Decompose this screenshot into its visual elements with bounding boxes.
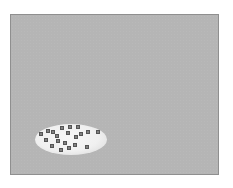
x-marker-icon xyxy=(63,141,67,145)
x-marker-icon xyxy=(56,139,60,143)
x-marker-icon xyxy=(55,134,59,138)
x-marker-icon xyxy=(67,146,71,150)
x-marker-icon xyxy=(66,131,70,135)
x-marker-icon xyxy=(74,135,78,139)
x-marker-icon xyxy=(60,126,64,130)
x-marker-icon xyxy=(86,130,90,134)
x-marker-icon xyxy=(76,125,80,129)
diagram-canvas xyxy=(0,0,233,188)
x-marker-icon xyxy=(85,145,89,149)
x-marker-icon xyxy=(68,125,72,129)
x-marker-icon xyxy=(79,132,83,136)
x-marker-icon xyxy=(46,129,50,133)
x-marker-icon xyxy=(50,144,54,148)
x-marker-icon xyxy=(59,148,63,152)
x-marker-icon xyxy=(73,143,77,147)
x-marker-icon xyxy=(39,132,43,136)
outer-rectangle xyxy=(10,14,219,175)
x-marker-icon xyxy=(44,138,48,142)
x-marker-icon xyxy=(96,130,100,134)
